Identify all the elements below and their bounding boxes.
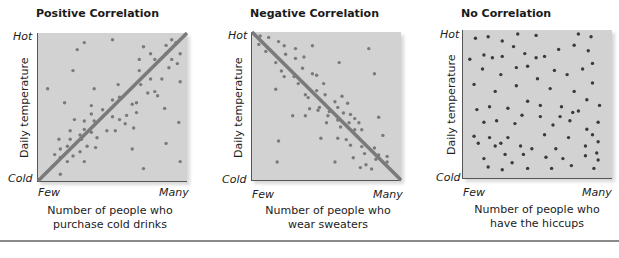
data-point [69, 138, 72, 141]
y-tick-hot: Hot [228, 29, 247, 42]
x-axis-title-line-2: purchase cold drinks [30, 218, 190, 232]
data-point [595, 151, 598, 154]
data-point [131, 103, 134, 106]
data-point [515, 66, 518, 69]
data-point [178, 160, 181, 163]
data-point [283, 44, 286, 47]
data-point [323, 93, 326, 96]
data-point [494, 90, 497, 93]
data-point [71, 69, 74, 72]
data-point [557, 48, 560, 51]
y-axis-title: Daily temperature [18, 58, 31, 158]
data-point [548, 87, 551, 90]
x-axis-title-line-1: Number of people who [30, 204, 190, 218]
data-point [153, 90, 156, 93]
data-point [336, 106, 339, 109]
data-point [92, 87, 95, 90]
data-point [277, 139, 280, 142]
data-point [501, 55, 504, 58]
data-point [486, 35, 489, 38]
data-point [475, 108, 478, 111]
data-point [342, 111, 345, 114]
data-point [477, 142, 480, 145]
data-point [373, 72, 376, 75]
data-point [114, 129, 117, 132]
data-point [591, 133, 594, 136]
data-point [526, 100, 529, 103]
x-axis-title-line-1: Number of people who [248, 204, 408, 218]
data-point [325, 121, 328, 124]
data-point [149, 77, 152, 80]
data-point [275, 160, 278, 163]
data-point [481, 67, 484, 70]
data-point [340, 95, 343, 98]
data-point [567, 136, 570, 139]
data-point [139, 83, 142, 86]
data-point [280, 69, 283, 72]
data-point [565, 73, 568, 76]
data-point [85, 145, 88, 148]
data-point [591, 81, 594, 84]
data-point [326, 114, 329, 117]
data-point [304, 93, 307, 96]
data-point [53, 153, 56, 156]
x-tick-few: Few [463, 186, 485, 199]
data-point [311, 72, 314, 75]
data-point [170, 38, 173, 41]
data-point [118, 118, 121, 121]
data-point [90, 112, 93, 115]
data-point [294, 57, 297, 60]
data-point [561, 157, 564, 160]
data-point [105, 129, 108, 132]
data-point [111, 98, 114, 101]
data-point [101, 108, 104, 111]
data-point [554, 147, 557, 150]
data-point [83, 119, 86, 122]
data-point [550, 167, 553, 170]
data-point [482, 157, 485, 160]
data-point [544, 156, 547, 159]
data-point [585, 128, 588, 131]
data-point [94, 146, 97, 149]
data-point [322, 82, 325, 85]
data-point [167, 66, 170, 69]
data-point [349, 113, 352, 116]
data-point [83, 160, 86, 163]
data-point [153, 58, 156, 61]
data-point [164, 44, 167, 47]
data-point [149, 52, 152, 55]
scatter-svg [252, 32, 401, 180]
data-point [385, 155, 388, 158]
data-point [156, 94, 159, 97]
data-point [591, 62, 594, 65]
data-point [364, 163, 367, 166]
data-point [472, 135, 475, 138]
data-point [520, 114, 523, 117]
data-point [381, 134, 384, 137]
data-point [363, 152, 366, 155]
data-point [577, 109, 580, 112]
data-point [468, 58, 471, 61]
data-point [73, 118, 76, 121]
data-point [267, 36, 270, 39]
data-point [69, 129, 72, 132]
data-point [360, 128, 363, 131]
data-point [360, 145, 363, 148]
data-point [510, 161, 513, 164]
scatter-plot-area [251, 32, 401, 181]
data-point [551, 123, 554, 126]
data-point [474, 37, 477, 40]
data-point [274, 88, 277, 91]
section-divider [0, 240, 619, 242]
data-point [66, 160, 69, 163]
data-point [486, 165, 489, 168]
data-point [264, 50, 267, 53]
data-point [257, 43, 260, 46]
data-point [302, 55, 305, 58]
chart-panel-negative: Negative Correlation Hot Cold Daily temp… [210, 0, 416, 240]
data-point [506, 136, 509, 139]
data-point [333, 100, 336, 103]
data-point [57, 138, 60, 141]
data-point [163, 107, 166, 110]
data-point [482, 53, 485, 56]
